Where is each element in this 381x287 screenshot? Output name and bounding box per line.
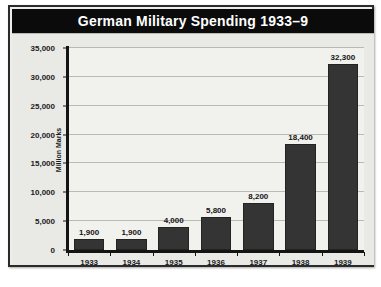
bar-value-label: 5,800 (206, 206, 226, 215)
scan-page-background: German Military Spending 1933–9 Million … (0, 0, 381, 287)
y-axis-tick-label: 0 (51, 246, 55, 255)
bar-value-label: 8,200 (248, 192, 268, 201)
y-axis-tick-label: 30,000 (31, 72, 55, 81)
y-axis-tick-layer: 05,00010,00015,00020,00025,00030,00035,0… (12, 48, 63, 250)
x-axis-tick-mark (322, 252, 323, 256)
x-axis-tick-mark (364, 252, 365, 256)
x-axis-tick-mark (110, 252, 111, 256)
x-axis-label-layer: 1933193419351936193719381939 (68, 255, 364, 273)
x-axis-tick-mark (153, 252, 154, 256)
bar-value-label: 1,900 (79, 228, 99, 237)
bar-value-label: 4,000 (164, 216, 184, 225)
x-axis-tick-label: 1933 (68, 258, 110, 267)
bar (74, 239, 104, 250)
x-axis-tick-label: 1937 (237, 258, 279, 267)
x-axis-tick-label: 1939 (322, 258, 364, 267)
bar (328, 64, 358, 250)
bar-group: 18,400 (285, 48, 315, 250)
y-axis-tick-label: 35,000 (31, 44, 55, 53)
y-axis-tick-label: 5,000 (35, 217, 55, 226)
bar (158, 227, 188, 250)
bar (285, 144, 315, 250)
bar-group: 1,900 (74, 48, 104, 250)
bar (201, 217, 231, 250)
y-axis-tick-label: 15,000 (31, 159, 55, 168)
y-axis-tick-label: 25,000 (31, 101, 55, 110)
x-axis-tick-mark (195, 252, 196, 256)
x-axis-tick-label: 1935 (153, 258, 195, 267)
y-axis-tick-label: 20,000 (31, 130, 55, 139)
x-axis-tick-mark (237, 252, 238, 256)
y-axis-tick-label: 10,000 (31, 188, 55, 197)
bar (116, 239, 146, 250)
x-axis-tick-mark (68, 252, 69, 256)
x-axis-tick-label: 1934 (110, 258, 152, 267)
bar-group: 1,900 (116, 48, 146, 250)
y-axis-line (66, 46, 69, 252)
x-axis-tick-mark (279, 252, 280, 256)
bar-group: 8,200 (243, 48, 273, 250)
chart-title-banner: German Military Spending 1933–9 (12, 9, 374, 33)
x-axis-tick-label: 1938 (279, 258, 321, 267)
x-axis-tick-label: 1936 (195, 258, 237, 267)
bar-group: 5,800 (201, 48, 231, 250)
bar (243, 203, 273, 250)
bar-value-label: 32,300 (331, 53, 355, 62)
plot-area: 1,9001,9004,0005,8008,20018,40032,300 (68, 48, 364, 250)
chart-panel: Million Marks 05,00010,00015,00020,00025… (12, 33, 374, 265)
bar-value-label: 18,400 (288, 133, 312, 142)
bar-group: 32,300 (328, 48, 358, 250)
page-title: German Military Spending 1933–9 (78, 13, 308, 29)
chart-figure-frame: German Military Spending 1933–9 Million … (8, 5, 374, 267)
bar-value-label: 1,900 (121, 228, 141, 237)
bar-group: 4,000 (158, 48, 188, 250)
